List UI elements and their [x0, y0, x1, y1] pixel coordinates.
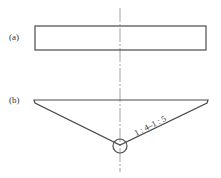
- triangular-section: [34, 100, 208, 145]
- part-b-label: (b): [9, 95, 20, 105]
- slope-ratio-annotation: 1 : 4–1 : 5: [132, 113, 167, 138]
- rectangular-section: [35, 26, 206, 50]
- part-a: (a): [9, 26, 206, 50]
- part-a-label: (a): [9, 32, 19, 42]
- cross-section-diagram: (a) (b) 1 : 4–1 : 5: [0, 0, 221, 178]
- part-b: (b) 1 : 4–1 : 5: [9, 95, 208, 153]
